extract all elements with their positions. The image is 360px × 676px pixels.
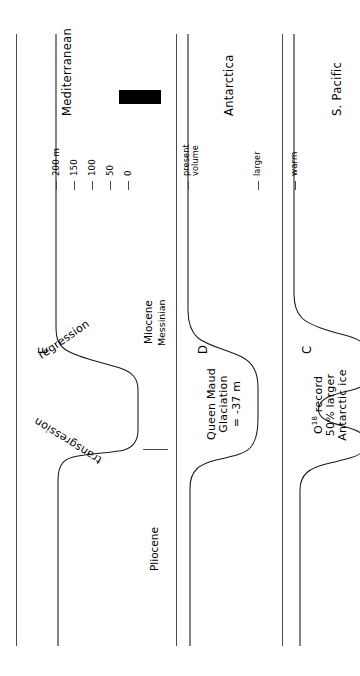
scale-tick-150 bbox=[74, 181, 75, 190]
panel-e-stage-miocene: Miocene bbox=[142, 300, 154, 344]
panel-e-stage-pliocene: Pliocene bbox=[148, 527, 160, 571]
scale-label-200: 200 m bbox=[51, 148, 61, 176]
panel-c-tick-warm bbox=[295, 181, 296, 190]
scale-label-150: 150 bbox=[69, 159, 79, 176]
panel-e-stage-divider bbox=[143, 449, 168, 450]
panel-c-caption-l1: O18 record bbox=[312, 376, 325, 434]
panel-c-caption-l3: Antarctic ice bbox=[336, 369, 349, 440]
scale-tick-200 bbox=[56, 181, 57, 190]
panel-d-caption-l3: = -37 m bbox=[230, 381, 243, 427]
panel-d-label-present: present volume bbox=[182, 144, 200, 176]
scale-label-50: 50 bbox=[105, 165, 115, 176]
panel-d-tick-larger bbox=[258, 181, 259, 190]
panel-c-label-warm: warm bbox=[289, 152, 299, 176]
panel-d-caption-l1: Queen Maud bbox=[205, 368, 218, 440]
scale-label-100: 100 bbox=[87, 159, 97, 176]
panel-c-caption: O18 record 50% larger Antarctic ice bbox=[312, 340, 350, 470]
figure-stage: E transgression regression 200 m 150 100… bbox=[0, 0, 360, 676]
panel-d-region: Antarctica bbox=[222, 54, 236, 116]
panel-c-curve-svg bbox=[282, 0, 360, 676]
panel-e-stage-messinian: Messinian bbox=[156, 300, 167, 346]
panel-d-label-larger: larger bbox=[252, 151, 262, 176]
scale-label-0: 0 bbox=[123, 170, 133, 176]
panel-d-curve bbox=[188, 34, 258, 646]
panel-d-tick-present bbox=[188, 181, 189, 190]
scale-tick-100 bbox=[92, 181, 93, 190]
panel-c-region: S. Pacific bbox=[330, 62, 344, 116]
scale-tick-50 bbox=[110, 181, 111, 190]
scale-tick-0 bbox=[128, 181, 129, 190]
panel-d-caption: Queen Maud Glaciation = -37 m bbox=[206, 344, 243, 464]
panel-e-region: Mediterranean bbox=[60, 28, 74, 116]
panel-d-label-present-l2: volume bbox=[190, 145, 200, 176]
figure-page: E transgression regression 200 m 150 100… bbox=[0, 0, 360, 676]
panel-d-caption-l2: Glaciation bbox=[217, 375, 230, 432]
panel-c-caption-l2: 50% larger bbox=[324, 374, 337, 436]
